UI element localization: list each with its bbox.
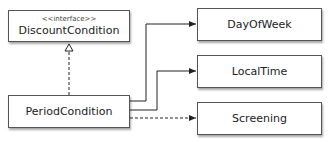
class-day-of-week: DayOfWeek — [197, 8, 322, 41]
realization-connector — [65, 44, 73, 95]
class-local-time: LocalTime — [197, 55, 322, 88]
class-name: PeriodCondition — [26, 105, 113, 118]
association-localtime-connector — [130, 71, 196, 110]
class-name: DayOfWeek — [227, 18, 291, 31]
stereotype-label: <<interface>> — [42, 15, 97, 24]
association-dayofweek-connector — [130, 24, 196, 101]
class-name: LocalTime — [232, 65, 287, 78]
class-screening: Screening — [197, 102, 322, 135]
class-discount-condition: <<interface>> DiscountCondition — [8, 10, 130, 42]
class-period-condition: PeriodCondition — [8, 95, 130, 128]
class-name: DiscountCondition — [19, 24, 120, 37]
class-name: Screening — [232, 112, 287, 125]
